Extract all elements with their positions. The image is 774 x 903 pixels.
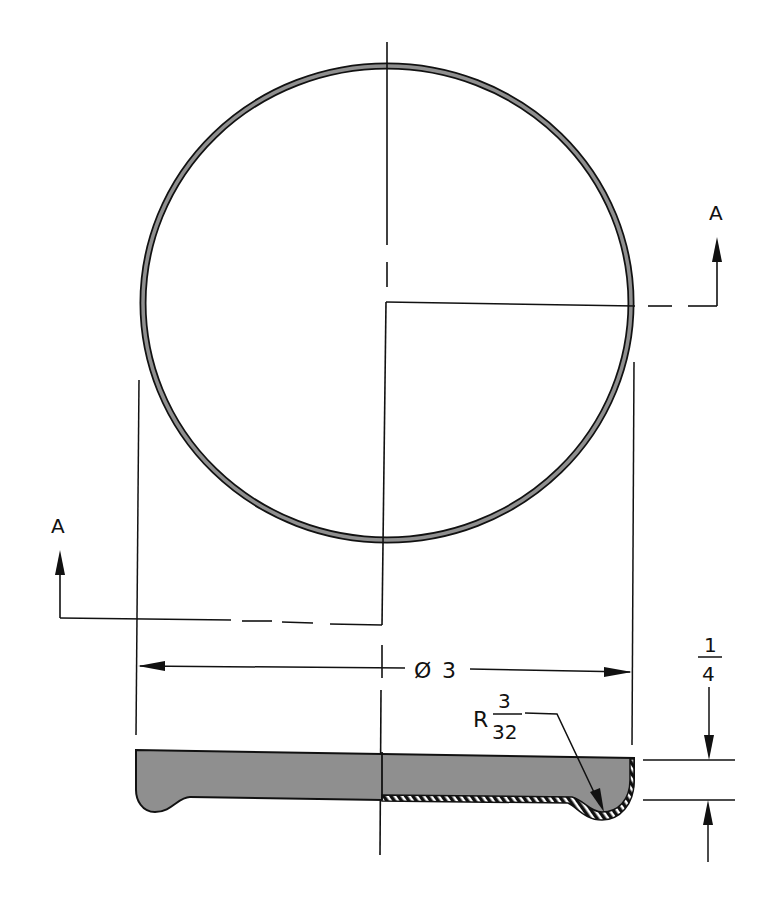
diameter-dimension-line — [140, 666, 630, 672]
thickness-numerator: 1 — [704, 633, 717, 657]
diameter-arrow-right-icon — [604, 667, 632, 677]
diameter-value: 3 — [442, 658, 456, 683]
section-view — [136, 750, 634, 820]
section-arrow-right-icon — [712, 237, 722, 262]
technical-drawing: A A Ø 3 R 3 32 1 4 — [0, 0, 774, 903]
radius-prefix: R — [473, 707, 488, 732]
section-arrow-left-icon — [55, 550, 65, 575]
center-line-lower — [380, 645, 382, 855]
diameter-arrow-left-icon — [138, 661, 165, 671]
cutting-plane-line — [60, 258, 717, 625]
diameter-symbol: Ø — [414, 658, 431, 683]
thickness-denominator: 4 — [702, 662, 715, 686]
radius-numerator: 3 — [498, 689, 511, 713]
thickness-arrow-up-icon — [703, 800, 713, 825]
section-label-a-left: A — [51, 514, 65, 538]
thickness-arrow-down-icon — [704, 735, 714, 760]
radius-denominator: 32 — [492, 720, 517, 744]
thickness-dimension — [643, 657, 735, 862]
section-label-a-right: A — [709, 201, 723, 225]
